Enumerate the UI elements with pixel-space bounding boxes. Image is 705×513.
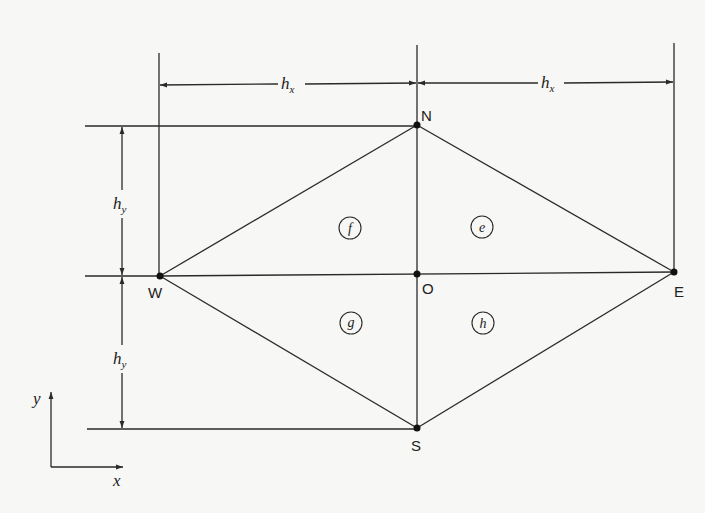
svg-text:h: h — [480, 316, 487, 331]
extension-lines — [85, 43, 674, 429]
coordinate-axes: y x — [31, 389, 123, 490]
region-g: g — [340, 312, 362, 334]
svg-text:g: g — [348, 315, 355, 330]
node-S-label: S — [411, 437, 421, 454]
x-axis-label: x — [112, 471, 121, 490]
node-N-label: N — [421, 107, 432, 124]
mesh-diagram: hx hx hy hy N W O E S — [0, 0, 705, 513]
hy-bottom-label: hy — [113, 349, 127, 370]
node-O-label: O — [422, 280, 434, 297]
region-e: e — [471, 216, 493, 238]
svg-text:e: e — [479, 220, 485, 235]
mesh-nodes: N W O E S — [148, 107, 684, 454]
node-S-dot — [414, 425, 421, 432]
edge-S-W — [160, 276, 417, 428]
dimension-hy-bottom: hy — [113, 277, 127, 428]
node-E-label: E — [674, 283, 684, 300]
node-W-dot — [157, 273, 164, 280]
node-N-dot — [414, 122, 421, 129]
node-O-dot — [414, 271, 421, 278]
edge-W-N — [160, 125, 417, 276]
region-h: h — [472, 312, 494, 334]
hx-right-label: hx — [541, 73, 555, 94]
hx-left-label: hx — [281, 74, 295, 95]
dimension-hy-top: hy — [113, 127, 127, 275]
node-E-dot — [671, 269, 678, 276]
edge-N-E — [417, 125, 674, 272]
edge-E-S — [417, 272, 674, 428]
region-f: f — [339, 217, 361, 239]
y-axis-label: y — [31, 389, 41, 408]
dimension-hx-left: hx — [160, 74, 416, 95]
dimension-hx-right: hx — [418, 73, 673, 94]
node-W-label: W — [148, 284, 163, 301]
hy-top-label: hy — [113, 194, 127, 215]
